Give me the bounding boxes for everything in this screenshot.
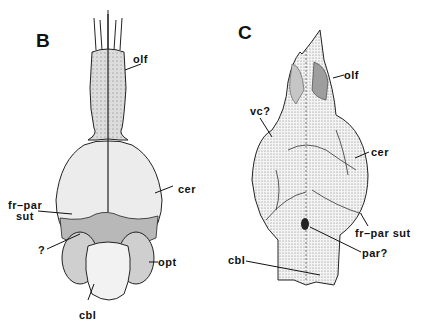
label-fr-par-sut-line2: sut [16,211,34,222]
label-question: ? [38,245,45,256]
label-cer: cer [178,184,196,195]
label-vc: vc? [250,106,270,117]
endocast-dorsal-illustration [0,0,216,330]
label-cer: cer [371,147,389,158]
label-opt: opt [158,257,177,268]
label-cbl: cbl [79,310,96,321]
panel-c: C olf vc? cer fr–par sut par? cbl [216,0,432,330]
endocast-fossil-illustration [216,0,432,330]
label-par: par? [362,248,388,259]
label-olf: olf [133,54,148,65]
label-olf: olf [344,70,359,81]
panel-b: B olf cer fr–par sut ? opt c [0,0,216,330]
label-cbl: cbl [228,255,245,266]
label-fr-par-sut: fr–par sut [355,228,411,239]
